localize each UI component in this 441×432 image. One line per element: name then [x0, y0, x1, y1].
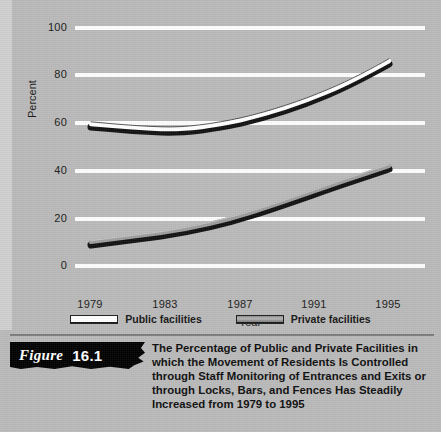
plot-region: 100 80 60 40 20 0 1979 1983 198 — [75, 26, 425, 266]
y-tick-80: 80 — [27, 68, 67, 80]
legend-label-public: Public facilities — [125, 313, 201, 325]
figure-caption-text: The Percentage of Public and Private Fac… — [152, 342, 430, 412]
legend-label-private: Private facilities — [291, 313, 371, 325]
data-lines — [75, 26, 425, 286]
figure-number-banner: Figure 16.1 — [10, 342, 145, 369]
legend-swatch-private-line-icon — [236, 315, 284, 323]
y-tick-60: 60 — [27, 116, 67, 128]
figure-caption-block: Figure 16.1 The Percentage of Public and… — [0, 340, 441, 432]
chart-area: Percent 100 80 60 40 20 0 — [0, 0, 441, 332]
page-left-margin — [0, 0, 12, 330]
legend-item-public: Public facilities — [70, 313, 201, 325]
legend-item-private: Private facilities — [236, 313, 371, 325]
figure-number: 16.1 — [72, 347, 102, 364]
legend-swatch-public-line-icon — [70, 315, 118, 323]
y-tick-100: 100 — [27, 21, 67, 33]
y-tick-40: 40 — [27, 164, 67, 176]
figure-root: Percent 100 80 60 40 20 0 — [0, 0, 441, 432]
caption-divider — [10, 334, 434, 336]
figure-word: Figure — [19, 347, 63, 364]
chart-legend: Public facilities Private facilities — [0, 309, 441, 329]
y-tick-20: 20 — [27, 212, 67, 224]
y-tick-0: 0 — [27, 259, 67, 271]
y-axis-label: Percent — [26, 80, 38, 118]
